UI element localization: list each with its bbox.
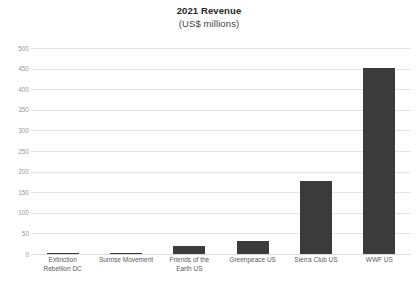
- x-tick-label: Friends of the Earth US: [161, 256, 217, 273]
- y-tick-label-200: 200: [3, 168, 29, 175]
- bar[interactable]: [173, 246, 205, 254]
- y-tick-label-0: 0: [3, 251, 29, 258]
- y-tick-label-350: 350: [3, 106, 29, 113]
- y-tick-label-150: 150: [3, 189, 29, 196]
- y-tick-label-450: 450: [3, 65, 29, 72]
- x-tick-label: Greenpeace US: [225, 256, 281, 265]
- bar[interactable]: [110, 253, 142, 254]
- x-tick-label: Extinction Rebellion DC: [35, 256, 91, 273]
- bar[interactable]: [363, 68, 395, 254]
- bar-chart: 2021 Revenue (US$ millions) 500450400350…: [0, 0, 418, 285]
- x-axis-tick-labels: Extinction Rebellion DCSunrise MovementF…: [31, 256, 411, 285]
- y-tick-label-400: 400: [3, 86, 29, 93]
- y-tick-label-100: 100: [3, 209, 29, 216]
- x-tick-label: Sierra Club US: [288, 256, 344, 265]
- bar-slot: [348, 48, 411, 254]
- bar-slot: [94, 48, 157, 254]
- bar-slot: [221, 48, 284, 254]
- bar[interactable]: [300, 181, 332, 254]
- chart-subtitle: (US$ millions): [0, 17, 418, 30]
- y-axis-tick-labels: 500450400350300250200150100500: [0, 48, 29, 254]
- chart-title-block: 2021 Revenue (US$ millions): [0, 4, 418, 30]
- y-tick-label-250: 250: [3, 148, 29, 155]
- bar[interactable]: [237, 241, 269, 254]
- gridline-0: [31, 254, 411, 255]
- x-tick-label: Sunrise Movement: [98, 256, 154, 265]
- y-tick-label-500: 500: [3, 45, 29, 52]
- x-tick-label: WWF US: [351, 256, 407, 265]
- y-tick-label-300: 300: [3, 127, 29, 134]
- bar-slot: [158, 48, 221, 254]
- bar-slot: [284, 48, 347, 254]
- bars-group: [31, 48, 411, 254]
- bar[interactable]: [47, 253, 79, 254]
- y-tick-label-50: 50: [3, 230, 29, 237]
- bar-slot: [31, 48, 94, 254]
- chart-title: 2021 Revenue: [0, 4, 418, 17]
